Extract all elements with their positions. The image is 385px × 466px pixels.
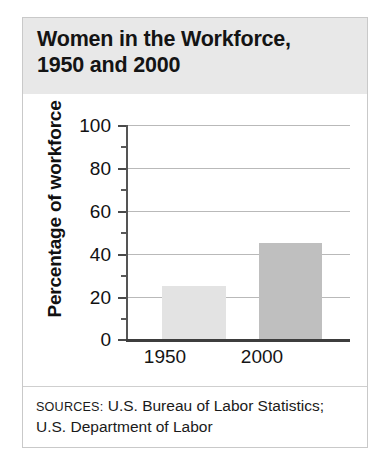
ytick-label-0: 0 — [51, 330, 111, 349]
chart-figure: Women in the Workforce, 1950 and 2000 Pe… — [22, 17, 368, 448]
plot-area: Percentage of workforce 100 80 60 40 20 … — [23, 94, 367, 386]
ytick-label-20: 20 — [51, 288, 111, 307]
bars-layer — [128, 125, 350, 339]
ytick-label-80: 80 — [51, 159, 111, 178]
title-band: Women in the Workforce, 1950 and 2000 — [23, 18, 367, 94]
bar-1950 — [162, 286, 226, 340]
xtick-label-1950: 1950 — [120, 346, 210, 368]
page-title: Women in the Workforce, 1950 and 2000 — [37, 26, 359, 78]
ytick-label-100: 100 — [51, 116, 111, 135]
sources-label: SOURCES: — [36, 400, 103, 414]
x-axis-line — [126, 339, 350, 342]
ytick-label-60: 60 — [51, 202, 111, 221]
sources-note: SOURCES: U.S. Bureau of Labor Statistics… — [36, 395, 357, 438]
xtick-label-2000: 2000 — [217, 346, 307, 368]
ytick-label-40: 40 — [51, 245, 111, 264]
bar-2000 — [259, 243, 322, 339]
sources-divider — [23, 386, 367, 387]
